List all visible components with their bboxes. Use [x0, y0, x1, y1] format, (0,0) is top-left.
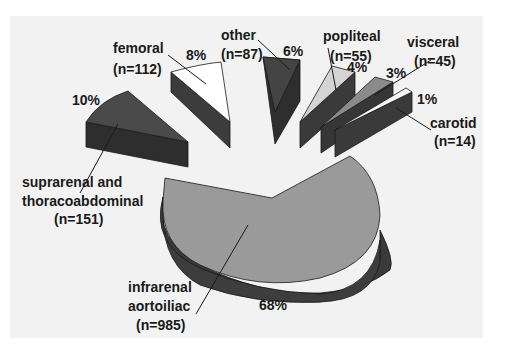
- infrarenal-name-2: aortoiliac: [128, 298, 190, 314]
- popliteal-percent: 4%: [347, 59, 368, 75]
- other-percent: 6%: [283, 43, 304, 59]
- infrarenal-count: (n=985): [136, 317, 185, 333]
- carotid-percent: 1%: [417, 91, 438, 107]
- femoral-count: (n=112): [113, 61, 162, 77]
- visceral-name: visceral: [407, 34, 459, 50]
- visceral-percent: 3%: [386, 65, 407, 81]
- other-name: other: [221, 27, 257, 43]
- femoral-name: femoral: [113, 40, 164, 56]
- suprarenal-name-2: thoracoabdominal: [22, 193, 143, 209]
- suprarenal-percent: 10%: [72, 92, 101, 108]
- suprarenal-count: (n=151): [54, 211, 103, 227]
- carotid-count: (n=14): [434, 133, 476, 149]
- popliteal-name: popliteal: [323, 28, 381, 44]
- infrarenal-percent: 68%: [259, 297, 288, 313]
- other-count: (n=87): [221, 46, 263, 62]
- suprarenal-name-1: suprarenal and: [22, 174, 122, 190]
- carotid-name: carotid: [430, 115, 477, 131]
- visceral-count: (n=45): [414, 53, 456, 69]
- femoral-percent: 8%: [186, 47, 207, 63]
- infrarenal-name-1: infrarenal: [128, 279, 192, 295]
- pie-chart: femoral (n=112) 8% other (n=87) 6% popli…: [0, 0, 508, 355]
